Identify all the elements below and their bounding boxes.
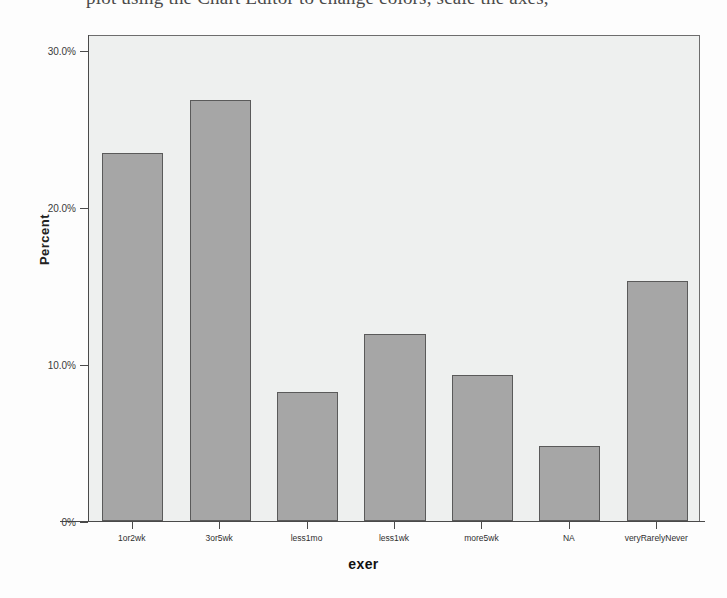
x-tick-label-less1wk: less1wk bbox=[379, 533, 409, 543]
x-tick-label-NA: NA bbox=[563, 533, 575, 543]
bar-less1mo bbox=[277, 392, 338, 521]
x-tick-label-more5wk: more5wk bbox=[464, 533, 498, 543]
x-tick-mark bbox=[132, 522, 133, 529]
x-tick-mark bbox=[394, 522, 395, 529]
x-axis-title: exer bbox=[0, 556, 727, 572]
bars-layer bbox=[89, 36, 699, 521]
x-tick-mark bbox=[569, 522, 570, 529]
y-axis-title: Percent bbox=[37, 190, 52, 290]
bar-more5wk bbox=[452, 375, 513, 521]
x-tick-label-less1mo: less1mo bbox=[291, 533, 323, 543]
bar-NA bbox=[539, 446, 600, 521]
x-tick-mark bbox=[481, 522, 482, 529]
x-tick-label-1or2wk: 1or2wk bbox=[118, 533, 145, 543]
x-axis-line bbox=[60, 521, 705, 522]
y-tick-mark bbox=[80, 522, 88, 523]
bar-veryRarelyNever bbox=[627, 281, 688, 521]
x-tick-mark bbox=[656, 522, 657, 529]
bar-3or5wk bbox=[190, 100, 251, 521]
y-tick-label: 20.0% bbox=[48, 202, 76, 213]
y-tick-label: 30.0% bbox=[48, 45, 76, 56]
plot-area bbox=[88, 35, 700, 522]
x-tick-mark bbox=[307, 522, 308, 529]
x-tick-label-3or5wk: 3or5wk bbox=[205, 533, 232, 543]
bar-1or2wk bbox=[102, 153, 163, 521]
y-tick-mark bbox=[80, 365, 88, 366]
bar-less1wk bbox=[364, 334, 425, 521]
y-tick-mark bbox=[80, 208, 88, 209]
y-tick-label: 0% bbox=[62, 517, 76, 528]
x-tick-mark bbox=[219, 522, 220, 529]
y-tick-mark bbox=[80, 51, 88, 52]
y-axis-line bbox=[88, 35, 89, 522]
bar-chart-figure: 0%10.0%20.0%30.0% Percent 1or2wk3or5wkle… bbox=[0, 0, 727, 598]
y-tick-label: 10.0% bbox=[48, 359, 76, 370]
x-tick-label-veryRarelyNever: veryRarelyNever bbox=[625, 533, 688, 543]
